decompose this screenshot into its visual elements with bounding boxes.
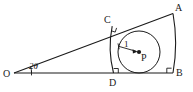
inner-arc-cd xyxy=(110,26,113,73)
point-label-c: C xyxy=(104,15,111,25)
arrow-head-icon xyxy=(133,49,138,53)
radius-length-label: 1 xyxy=(124,40,129,49)
geometry-figure: O A B C D P 2θ 1 xyxy=(0,0,193,92)
geometry-drawing xyxy=(0,0,193,92)
outer-arc-ab xyxy=(173,14,176,74)
point-label-b: B xyxy=(176,68,183,78)
center-label-p: P xyxy=(141,53,147,63)
point-label-d: D xyxy=(109,78,116,88)
right-angle-mark-b xyxy=(167,68,172,73)
point-label-a: A xyxy=(175,3,182,13)
right-angle-mark-d xyxy=(114,69,119,74)
angle-label-2theta: 2θ xyxy=(29,62,38,71)
vertex-label-o: O xyxy=(3,69,10,79)
